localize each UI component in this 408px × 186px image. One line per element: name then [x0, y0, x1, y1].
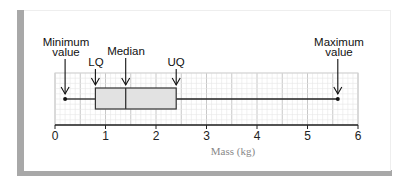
x-tick-label: 2 — [153, 129, 160, 143]
uq-label: UQ — [167, 56, 184, 68]
median-label: Median — [107, 45, 145, 57]
x-tick-label: 1 — [102, 129, 109, 143]
min-label-line2: value — [52, 46, 80, 58]
x-tick-label: 0 — [52, 129, 59, 143]
x-tick-label: 4 — [254, 129, 261, 143]
lq-label: LQ — [88, 56, 103, 68]
x-axis-ticks: 0123456 — [52, 125, 362, 143]
x-tick-label: 3 — [203, 129, 210, 143]
x-tick-label: 5 — [304, 129, 311, 143]
x-tick-label: 6 — [355, 129, 362, 143]
x-axis-title: Mass (kg) — [211, 145, 256, 158]
box-plot-chart: Minimum value LQ Median UQ Maximum value… — [0, 0, 408, 186]
max-label-line2: value — [325, 46, 353, 58]
